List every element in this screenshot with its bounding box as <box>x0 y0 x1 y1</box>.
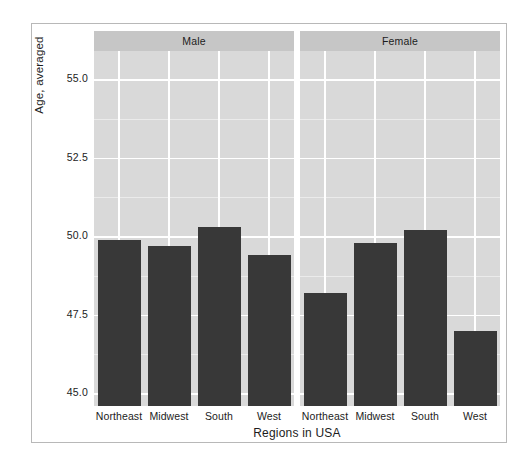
y-tick-label: 45.0 <box>48 387 88 398</box>
x-tick-label: West <box>450 409 500 423</box>
y-tick-label: 47.5 <box>48 309 88 320</box>
y-axis-tick-labels: 55.052.550.047.545.0 <box>48 0 88 466</box>
gridline-major <box>300 79 500 81</box>
y-axis-title: Age, averaged <box>30 0 48 150</box>
gridline-major <box>300 236 500 238</box>
facet-panels: MaleFemale <box>94 31 500 406</box>
facet-strip-label: Female <box>300 31 500 51</box>
x-tick-label: West <box>244 409 294 423</box>
x-axis-tick-labels: NortheastMidwestSouthWestNortheastMidwes… <box>94 409 500 425</box>
chart-figure: Age, averaged 55.052.550.047.545.0 MaleF… <box>0 0 523 466</box>
facet-panel: Female <box>300 31 500 406</box>
x-tick-label: Northeast <box>300 409 350 423</box>
x-axis-title: Regions in USA <box>94 426 500 440</box>
gridline-major <box>94 79 294 81</box>
bar <box>354 243 397 406</box>
bar <box>248 255 291 406</box>
gridline-major <box>94 158 294 160</box>
bar <box>98 240 141 407</box>
x-tick-label: Northeast <box>94 409 144 423</box>
panel-plot-area <box>300 51 500 406</box>
y-tick-label: 50.0 <box>48 230 88 241</box>
bar <box>454 331 497 406</box>
gridline-minor <box>94 197 294 198</box>
gridline-minor <box>300 119 500 120</box>
gridline-minor <box>300 197 500 198</box>
x-tick-label: Midwest <box>144 409 194 423</box>
y-tick-label: 52.5 <box>48 152 88 163</box>
y-tick-label: 55.0 <box>48 73 88 84</box>
gridline-major <box>94 236 294 238</box>
x-tick-label: South <box>400 409 450 423</box>
gridline-minor <box>300 276 500 277</box>
bar <box>404 230 447 406</box>
facet-strip-label: Male <box>94 31 294 51</box>
bar <box>198 227 241 406</box>
bar <box>148 246 191 406</box>
bar <box>304 293 347 406</box>
panel-plot-area <box>94 51 294 406</box>
facet-panel: Male <box>94 31 294 406</box>
gridline-minor <box>94 119 294 120</box>
x-tick-label: Midwest <box>350 409 400 423</box>
gridline-major <box>300 158 500 160</box>
x-tick-label: South <box>194 409 244 423</box>
